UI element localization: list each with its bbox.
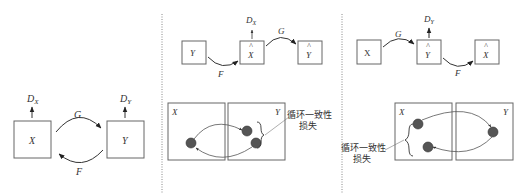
generator-g-arrow bbox=[383, 39, 414, 47]
cycle-loss-label-line2: 损失 bbox=[353, 153, 371, 164]
domain-x-label: X bbox=[28, 135, 36, 146]
box-x-hat-label: X bbox=[482, 50, 489, 60]
generator-f-arrow bbox=[443, 58, 473, 66]
sample-point bbox=[242, 126, 252, 136]
cycle-gan-diagram: X Y DX DY G F Y ^ X ^ Y DX F G X Y bbox=[0, 0, 524, 196]
discriminator-dx-label: DX bbox=[245, 15, 257, 26]
domain-y-label: Y bbox=[503, 107, 509, 117]
box-y-label: Y bbox=[190, 48, 196, 58]
generator-f-label: F bbox=[75, 166, 83, 177]
cycle-loss-label-line2: 损失 bbox=[299, 120, 317, 131]
generator-g-label: G bbox=[395, 29, 402, 39]
generator-f-arrow bbox=[59, 150, 103, 163]
domain-y-label: Y bbox=[275, 107, 281, 117]
discriminator-dx-label: DX bbox=[26, 93, 39, 106]
generator-f-label: F bbox=[217, 69, 224, 79]
generator-g-label: G bbox=[74, 109, 81, 120]
generator-f-label: F bbox=[454, 68, 461, 78]
panel-b: Y ^ X ^ Y DX F G X Y 循环一致性 损失 bbox=[168, 15, 332, 160]
mapping-arrow bbox=[194, 124, 242, 139]
domain-y-label: Y bbox=[122, 135, 129, 146]
box-x-label: X bbox=[364, 48, 371, 58]
generator-g-label: G bbox=[278, 26, 285, 36]
panel-c: X ^ Y ^ X DY G F X Y 循环一致性 损失 bbox=[341, 14, 513, 164]
mapping-arrow bbox=[433, 137, 492, 152]
sample-point bbox=[488, 127, 498, 137]
sample-point bbox=[186, 138, 196, 148]
box-y-hat-label: Y bbox=[306, 50, 312, 60]
domain-x-label: X bbox=[171, 107, 178, 117]
cycle-loss-label: 循环一致性 bbox=[341, 142, 386, 153]
cycle-loss-label: 循环一致性 bbox=[287, 109, 332, 120]
panel-a: X Y DX DY G F bbox=[14, 93, 144, 177]
generator-f-arrow bbox=[208, 57, 238, 66]
box-y-hat-label: Y bbox=[425, 50, 431, 60]
sample-point bbox=[423, 142, 433, 152]
box-x-hat-label: X bbox=[247, 50, 254, 60]
mapping-arrow bbox=[196, 147, 252, 157]
sample-point bbox=[413, 119, 423, 129]
brace-icon bbox=[405, 124, 413, 156]
discriminator-dy-label: DY bbox=[119, 93, 132, 106]
domain-x-label: X bbox=[398, 107, 405, 117]
generator-g-arrow bbox=[266, 37, 296, 46]
discriminator-dy-label: DY bbox=[423, 14, 435, 25]
